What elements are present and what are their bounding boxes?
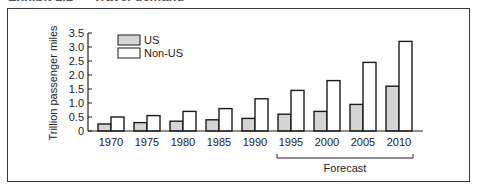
bar-us-1970: [98, 124, 111, 131]
bar-us-2010: [386, 86, 399, 131]
y-tick-label: 2.0: [69, 69, 84, 81]
y-tick-label: 0: [78, 125, 84, 137]
legend-label-us: US: [144, 34, 159, 46]
bar-non-us-1975: [147, 116, 160, 131]
x-tick-label: 1970: [99, 136, 123, 148]
bar-us-1985: [206, 120, 219, 131]
y-tick-label: 0.5: [69, 111, 84, 123]
y-tick-label: 1.0: [69, 97, 84, 109]
x-tick-label: 1980: [171, 136, 195, 148]
y-tick-label: 3.5: [69, 27, 84, 39]
bar-us-1990: [242, 118, 255, 131]
x-tick-label: 2005: [351, 136, 375, 148]
bar-non-us-2005: [363, 62, 376, 131]
bar-non-us-1990: [255, 99, 268, 131]
legend-label-non-us: Non-US: [144, 47, 183, 59]
bar-us-1975: [134, 123, 147, 131]
bar-non-us-2000: [327, 81, 340, 131]
bar-non-us-1970: [111, 117, 124, 131]
y-tick-label: 3.0: [69, 41, 84, 53]
legend-swatch-us: [118, 35, 140, 45]
bar-us-2000: [314, 111, 327, 131]
bar-non-us-1980: [183, 111, 196, 131]
bar-non-us-1995: [291, 90, 304, 131]
legend-swatch-non-us: [118, 48, 140, 58]
x-tick-label: 1990: [243, 136, 267, 148]
x-axis: 197019751980198519901995200020052010: [88, 131, 423, 148]
x-tick-label: 1975: [135, 136, 159, 148]
bar-chart: 00.51.01.52.02.53.03.5 19701975198019851…: [0, 0, 477, 189]
x-tick-label: 2000: [315, 136, 339, 148]
bar-us-1995: [278, 114, 291, 131]
y-tick-label: 1.5: [69, 83, 84, 95]
x-tick-label: 2010: [387, 136, 411, 148]
forecast-label: Forecast: [324, 162, 367, 174]
x-tick-label: 1995: [279, 136, 303, 148]
bar-non-us-2010: [399, 41, 412, 131]
y-axis-label: Trillion passenger miles: [47, 25, 59, 141]
bar-us-2005: [350, 104, 363, 131]
legend: USNon-US: [118, 34, 183, 59]
y-axis: 00.51.01.52.02.53.03.5: [69, 27, 92, 137]
forecast-bracket: Forecast: [277, 154, 413, 174]
bar-us-1980: [170, 121, 183, 131]
y-tick-label: 2.5: [69, 55, 84, 67]
bar-non-us-1985: [219, 109, 232, 131]
x-tick-label: 1985: [207, 136, 231, 148]
